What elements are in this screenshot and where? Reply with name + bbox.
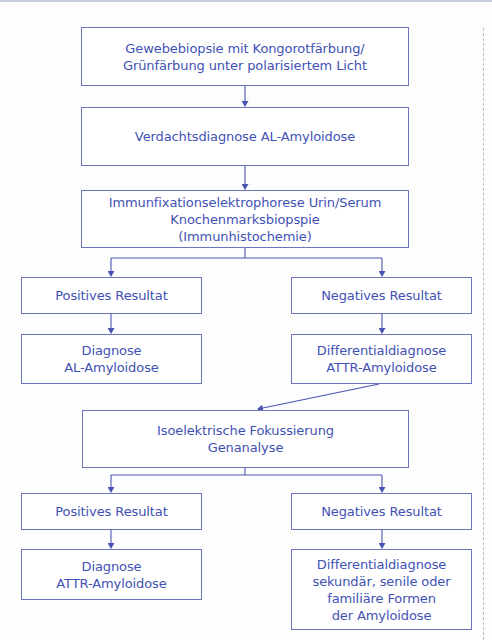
node-diagnosis-al: Diagnose AL-Amyloidose — [21, 334, 202, 384]
node-text: Diagnose — [81, 558, 141, 575]
node-isoelectric: Isoelektrische Fokussierung Genanalyse — [82, 410, 409, 468]
node-text: ATTR-Amyloidose — [326, 359, 436, 376]
node-text: ATTR-Amyloidose — [56, 575, 166, 592]
node-text: familiäre Formen — [327, 590, 436, 607]
node-negative-result-2: Negatives Resultat — [291, 493, 472, 530]
node-text: Immunfixationselektrophorese Urin/Serum — [109, 194, 382, 211]
node-text: Knochenmarksbiopspie — [170, 211, 319, 228]
node-biopsy: Gewebebiopsie mit Kongorotfärbung/ Grünf… — [81, 27, 409, 86]
node-text: AL-Amyloidose — [64, 359, 158, 376]
node-text: Gewebebiopsie mit Kongorotfärbung/ — [125, 40, 364, 57]
node-immunofixation: Immunfixationselektrophorese Urin/Serum … — [81, 190, 409, 248]
node-text: Positives Resultat — [55, 503, 167, 520]
node-text: Grünfärbung unter polarisiertem Licht — [123, 57, 367, 74]
node-text: sekundär, senile oder — [312, 573, 450, 590]
node-text: der Amyloidose — [332, 607, 432, 624]
node-text: Genanalyse — [208, 439, 284, 456]
node-text: Differentialdiagnose — [317, 556, 446, 573]
node-differential-other: Differentialdiagnose sekundär, senile od… — [291, 549, 472, 630]
node-text: (Immunhistochemie) — [178, 228, 311, 245]
node-suspicion: Verdachtsdiagnose AL-Amyloidose — [81, 107, 409, 166]
node-diagnosis-attr: Diagnose ATTR-Amyloidose — [21, 549, 202, 600]
node-differential-attr: Differentialdiagnose ATTR-Amyloidose — [291, 334, 472, 384]
node-text: Negatives Resultat — [321, 287, 442, 304]
node-text: Verdachtsdiagnose AL-Amyloidose — [135, 128, 355, 145]
node-text: Differentialdiagnose — [317, 342, 446, 359]
node-positive-result-2: Positives Resultat — [21, 493, 202, 530]
node-text: Negatives Resultat — [321, 503, 442, 520]
connector-lines — [0, 0, 492, 640]
node-text: Isoelektrische Fokussierung — [157, 422, 334, 439]
node-text: Positives Resultat — [55, 287, 167, 304]
node-positive-result-1: Positives Resultat — [21, 277, 202, 314]
node-text: Diagnose — [81, 342, 141, 359]
node-negative-result-1: Negatives Resultat — [291, 277, 472, 314]
